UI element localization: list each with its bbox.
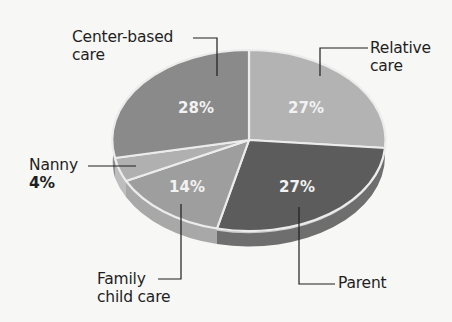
slice-pct-parent: 27% bbox=[279, 178, 315, 196]
label-line: Relative bbox=[370, 39, 431, 57]
slice-pct-family: 14% bbox=[169, 178, 205, 196]
label-line: Parent bbox=[338, 274, 386, 292]
label-relative-care: Relative care bbox=[370, 39, 431, 75]
label-pct: 4% bbox=[29, 174, 78, 192]
label-nanny: Nanny 4% bbox=[29, 156, 78, 192]
slice-pct-relative: 27% bbox=[288, 99, 324, 117]
slice-pct-center-based: 28% bbox=[178, 99, 214, 117]
label-line: Nanny bbox=[29, 156, 78, 174]
pie-top bbox=[112, 50, 385, 231]
label-family-child-care: Family child care bbox=[97, 270, 170, 306]
label-parent: Parent bbox=[338, 274, 386, 292]
label-line: Center-based bbox=[72, 28, 173, 46]
label-line: care bbox=[370, 57, 431, 75]
label-line: Family bbox=[97, 270, 170, 288]
label-center-based-care: Center-based care bbox=[72, 28, 173, 64]
label-line: care bbox=[72, 46, 173, 64]
label-line: child care bbox=[97, 288, 170, 306]
